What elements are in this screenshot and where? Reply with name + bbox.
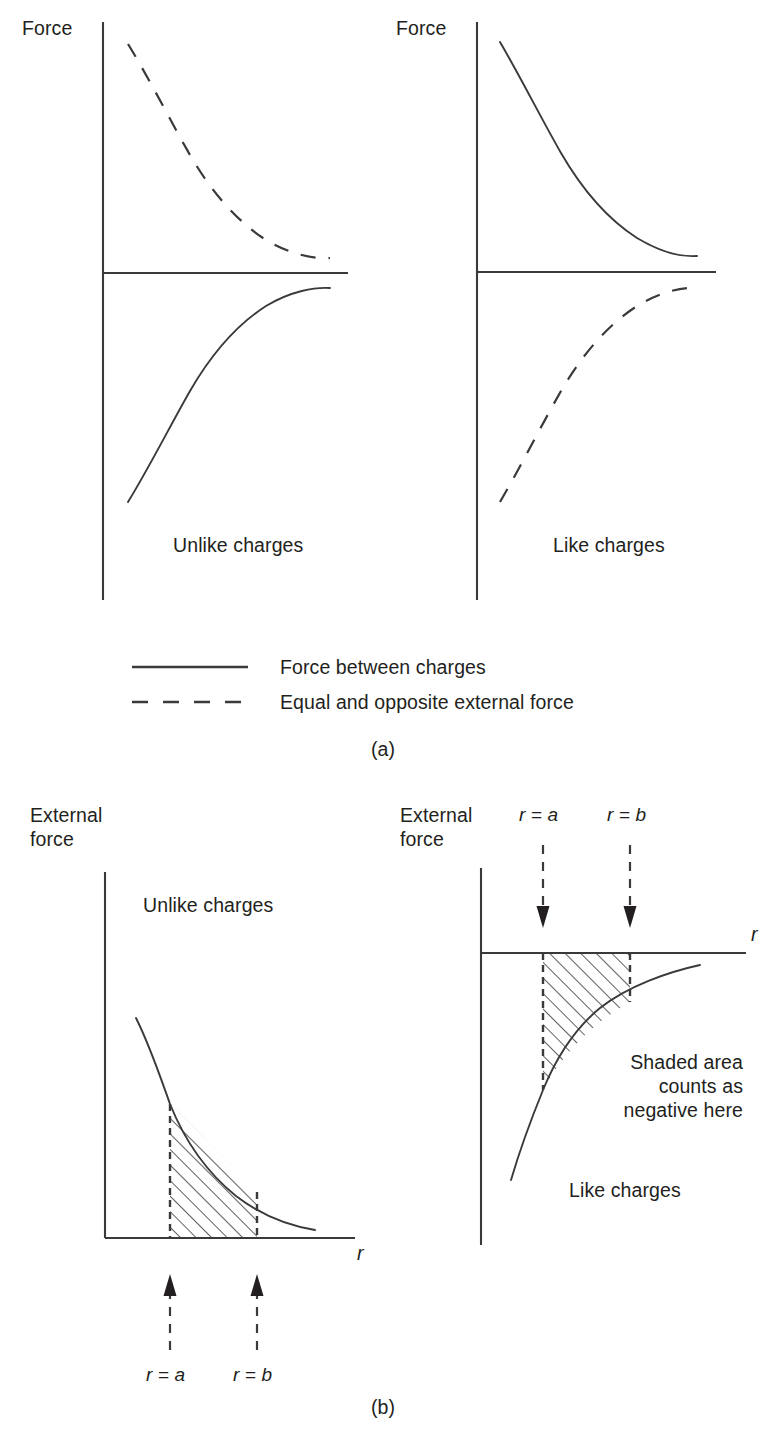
legend-item-label-dashed: Equal and opposite external force <box>280 690 574 714</box>
panel-b-left-marker-b-label: r = b <box>233 1363 272 1387</box>
curve-external-force-dashed <box>128 44 330 258</box>
panel-a-caption: (a) <box>371 737 395 761</box>
panel-b-right-x-axis-label: r <box>751 922 758 946</box>
panel-a-left-plot <box>103 22 348 600</box>
curve-external-force-dashed <box>500 288 697 502</box>
figure-canvas <box>0 0 778 1444</box>
panel-b-left-x-axis-label: r <box>357 1241 364 1265</box>
panel-b-right-title: Like charges <box>569 1178 681 1202</box>
panel-b-left-marker-a-label: r = a <box>146 1363 185 1387</box>
panel-b-left-plot <box>105 872 355 1350</box>
panel-a-right-y-axis-label: Force <box>396 16 446 40</box>
legend-item-label-solid: Force between charges <box>280 655 486 679</box>
figure-root: Force Unlike charges Force Like charges … <box>0 0 778 1444</box>
panel-b-right-y-axis-label: External force <box>400 803 472 851</box>
arrow-marker-a <box>537 845 550 928</box>
panel-b-right-marker-a-label: r = a <box>519 803 558 827</box>
panel-b-left-title: Unlike charges <box>143 893 273 917</box>
curve-force-between-charges-solid <box>500 42 697 256</box>
arrow-marker-a <box>164 1274 177 1350</box>
panel-b-caption: (b) <box>371 1395 395 1419</box>
panel-a-right-plot <box>477 22 716 600</box>
arrow-marker-b <box>624 845 637 928</box>
panel-a-right-title: Like charges <box>553 533 665 557</box>
legend-a <box>132 667 248 702</box>
arrow-marker-b <box>251 1274 264 1350</box>
panel-a-left-y-axis-label: Force <box>22 16 72 40</box>
panel-b-right-shaded-area-note: Shaded area counts as negative here <box>568 1050 743 1122</box>
panel-b-left-y-axis-label: External force <box>30 803 102 851</box>
panel-a-left-title: Unlike charges <box>173 533 303 557</box>
shaded-area-positive <box>160 1090 270 1250</box>
panel-b-right-marker-b-label: r = b <box>607 803 646 827</box>
curve-force-between-charges-solid <box>128 288 330 502</box>
